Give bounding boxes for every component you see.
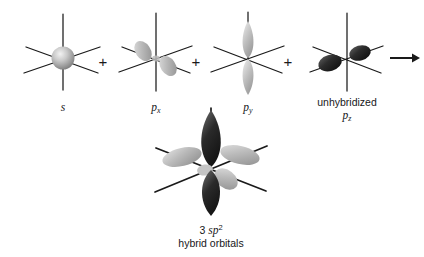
orbital-px: [119, 13, 192, 91]
label-py: py: [243, 101, 252, 118]
label-sp2-sup: 2: [218, 223, 222, 232]
pz-lobe-right: [347, 43, 372, 63]
axes-pz: [310, 13, 383, 91]
label-py-sub: y: [249, 106, 253, 115]
label-px-sub: x: [157, 106, 161, 115]
px-node-accent: [152, 56, 160, 62]
label-pz: unhybridized pz: [317, 96, 377, 125]
s-orbital-sphere: [52, 47, 75, 70]
orbital-py: [211, 12, 284, 95]
label-sp2-main: sp: [208, 224, 218, 236]
sp2-dark-lobe-upper: [201, 110, 221, 167]
label-s: s: [61, 101, 65, 114]
arrow-icon: [390, 54, 420, 63]
label-pz-prefix: unhybridized: [317, 96, 377, 108]
label-s-text: s: [61, 101, 65, 113]
sp2-light-lobe-right: [218, 142, 261, 169]
orbital-sp2-hybrid: [155, 108, 267, 216]
label-pz-sub: z: [348, 114, 351, 123]
orbital-pz: [310, 13, 383, 91]
py-lobe-upper: [243, 21, 254, 58]
axes-px: [119, 13, 192, 91]
label-sp2-count: 3: [199, 224, 205, 236]
plus-sign-1: +: [99, 53, 108, 70]
py-lobe-lower: [243, 59, 254, 95]
label-px: px: [151, 101, 160, 118]
sp2-light-lobe-left: [160, 144, 203, 171]
orbital-hybridization-diagram: + + +: [0, 0, 424, 257]
pz-lobe-left: [316, 52, 343, 74]
orbital-s: [24, 14, 100, 90]
px-lobe-lower-right: [156, 53, 181, 80]
plus-sign-3: +: [284, 53, 293, 70]
plus-sign-2: +: [192, 53, 201, 70]
label-sp2-hybrid: 3 sp2 hybrid orbitals: [178, 222, 243, 249]
label-sp2-line2: hybrid orbitals: [178, 237, 243, 249]
